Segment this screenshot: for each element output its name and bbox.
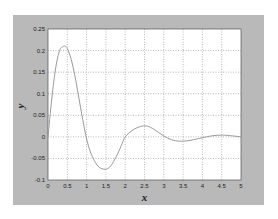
x-tick-label: 1.5: [102, 183, 111, 189]
y-tick-label: -0.1: [35, 177, 46, 183]
x-tick-label: 4: [201, 183, 205, 189]
x-tick-label: 5: [239, 183, 243, 189]
x-tick-label: 0: [46, 183, 50, 189]
x-tick-label: 3: [162, 183, 166, 189]
y-tick-label: 0.25: [33, 26, 45, 32]
x-tick-label: 2.5: [140, 183, 149, 189]
y-axis-label: y: [14, 103, 26, 110]
x-tick-label: 0.5: [63, 183, 72, 189]
x-tick-label: 2: [124, 183, 128, 189]
x-tick-label: 4.5: [218, 183, 227, 189]
y-tick-label: 0.15: [33, 69, 45, 75]
x-axis-label: x: [141, 191, 148, 203]
x-tick-label: 1: [85, 183, 89, 189]
x-tick-label: 3.5: [179, 183, 188, 189]
line-chart: 00.511.522.533.544.55-0.1-0.0500.050.10.…: [0, 0, 278, 219]
y-tick-label: 0.05: [33, 112, 45, 118]
y-tick-label: 0: [42, 134, 46, 140]
y-tick-label: 0.2: [37, 48, 46, 54]
y-tick-label: -0.05: [31, 155, 45, 161]
y-tick-label: 0.1: [37, 91, 46, 97]
